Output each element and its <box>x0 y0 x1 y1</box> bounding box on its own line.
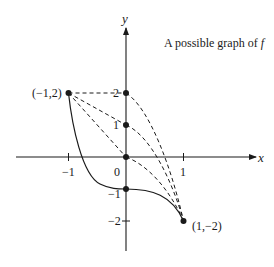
y-tick-label-2: 2 <box>113 86 119 100</box>
point-label-1-neg2: (1,−2) <box>192 219 222 233</box>
x-tick-label-0: 0 <box>114 165 120 179</box>
x-tick-label-neg1: −1 <box>62 165 75 179</box>
y-tick-label-neg1: −1 <box>108 187 121 201</box>
graph-title: A possible graph of f <box>164 36 266 50</box>
point-0-1 <box>123 122 129 128</box>
y-tick-label-1: 1 <box>113 118 119 132</box>
point-0-2 <box>123 90 129 96</box>
point-label-neg1-2: (−1,2) <box>32 86 62 100</box>
point-neg1-2 <box>66 90 72 96</box>
x-tick-label-1: 1 <box>180 165 186 179</box>
graph-diagram: y x −1 0 1 2 1 −1 −2 (−1,2) (1,−2) A pos… <box>0 0 274 267</box>
point-0-neg1 <box>123 186 129 192</box>
point-0-0 <box>123 154 129 160</box>
point-1-neg2 <box>181 218 187 224</box>
y-axis-label: y <box>120 11 128 26</box>
y-tick-label-neg2: −2 <box>108 214 121 228</box>
x-axis-label: x <box>257 150 264 165</box>
title-prefix: A possible graph of <box>164 36 261 50</box>
title-function: f <box>261 36 266 50</box>
